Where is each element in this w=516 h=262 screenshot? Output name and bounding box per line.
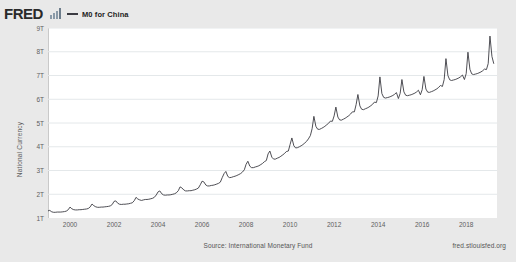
y-tick-label: 9T (4, 25, 48, 32)
x-tick-label: 2004 (138, 221, 178, 229)
y-tick-label: 7T (4, 72, 48, 79)
x-tick-label: 2000 (50, 221, 90, 229)
y-tick-label: 1T (4, 215, 48, 222)
fred-url[interactable]: fred.stlouisfed.org (452, 242, 506, 249)
plot-area (48, 28, 497, 218)
fred-chart-widget: FRED M0 for China National Currency 9T8T… (0, 0, 516, 262)
x-axis: 2000200220042006200820102012201420162018 (48, 221, 497, 231)
y-axis: National Currency 9T8T7T6T5T4T3T2T1T (0, 28, 48, 218)
chart-legend[interactable]: M0 for China (67, 8, 129, 20)
bar-chart-icon (50, 8, 63, 19)
x-tick-label: 2016 (402, 221, 442, 229)
y-tick-label: 8T (4, 48, 48, 55)
y-tick-label: 2T (4, 191, 48, 198)
x-tick-label: 2014 (358, 221, 398, 229)
series-line (48, 36, 494, 212)
x-tick-label: 2006 (182, 221, 222, 229)
y-tick-label: 3T (4, 167, 48, 174)
legend-series-label: M0 for China (82, 10, 129, 19)
x-tick-label: 2008 (226, 221, 266, 229)
fred-logo[interactable]: FRED (4, 6, 43, 21)
x-tick-label: 2002 (94, 221, 134, 229)
chart-header: FRED M0 for China (0, 0, 516, 24)
y-tick-label: 5T (4, 120, 48, 127)
y-tick-label: 4T (4, 143, 48, 150)
source-note: Source: International Monetary Fund (0, 242, 516, 249)
series-line-chart (48, 28, 497, 218)
x-tick-label: 2018 (446, 221, 486, 229)
x-tick-label: 2010 (270, 221, 310, 229)
legend-line-swatch (67, 13, 78, 15)
x-tick-label: 2012 (314, 221, 354, 229)
y-tick-label: 6T (4, 96, 48, 103)
